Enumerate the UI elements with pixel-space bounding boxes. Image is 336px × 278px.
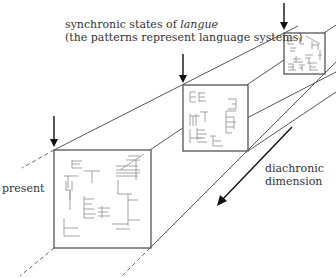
down-arrow-icon: [280, 3, 288, 30]
square-past-middle: [183, 85, 248, 151]
present-label: present: [2, 182, 45, 195]
diachronic-label-line1: diachronic: [265, 162, 324, 175]
patterns-note: (the patterns represent language systems…: [65, 31, 303, 44]
synchrony-diachrony-diagram: synchronic states of langue (the pattern…: [0, 0, 336, 278]
down-arrow-icon: [50, 116, 58, 147]
square-present: [54, 150, 151, 248]
diachronic-label-line2: dimension: [265, 175, 322, 188]
down-arrow-icon: [179, 54, 187, 83]
synchronic-label: synchronic states of langue: [65, 18, 219, 31]
